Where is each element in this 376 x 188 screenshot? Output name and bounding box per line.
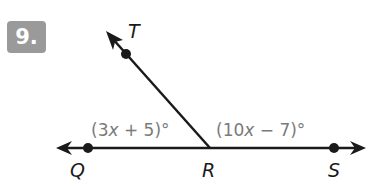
angle-label-qrt: (3x + 5)° [91, 120, 170, 140]
point-q [83, 143, 93, 153]
label-s: S [328, 159, 340, 181]
label-t: T [128, 20, 141, 42]
point-s [329, 143, 339, 153]
label-r: R [202, 159, 215, 181]
angle-label-trs: (10x − 7)° [216, 120, 305, 140]
point-t [121, 49, 131, 59]
angle-diagram: Q R S T (3x + 5)° (10x − 7)° [0, 0, 376, 188]
label-q: Q [70, 159, 85, 181]
